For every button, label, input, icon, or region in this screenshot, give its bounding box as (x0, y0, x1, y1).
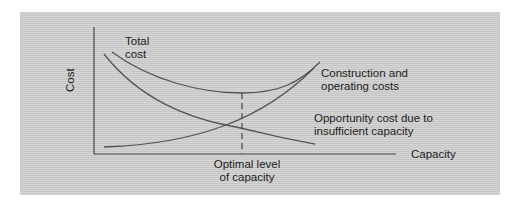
optimal-capacity-label: Optimal level of capacity (211, 158, 283, 184)
construction-cost-label: Construction and operating costs (321, 67, 408, 93)
total-cost-label: Total cost (125, 35, 149, 61)
construction-cost-curve (104, 68, 314, 147)
opportunity-cost-label: Opportunity cost due to insufficient cap… (314, 112, 433, 138)
x-axis-label: Capacity (411, 148, 456, 161)
y-axis-label: Cost (64, 68, 76, 92)
